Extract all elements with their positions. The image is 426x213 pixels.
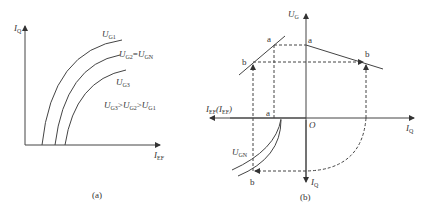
caption-b: (b) [300,192,311,202]
point-a-3: a [266,109,270,118]
caption-a: (a) [92,190,102,200]
curve-ug1-label: UG1 [102,30,116,40]
curve-ug1 [42,40,122,145]
line-left [239,36,285,75]
a-x-axis-label: IEF [154,151,164,161]
point-b-1: b [242,58,247,67]
line-right [306,45,383,69]
b-iq-right-label: IQ [406,124,413,134]
a-y-axis-label: IQ [14,24,21,34]
point-b-2: b [365,50,370,59]
origin-label: O [309,121,316,130]
curve-ug2-label: UG2=UGN [119,50,153,60]
relation-label: UG3>UG2>UG1 [104,101,156,111]
point-a-2: a [308,36,312,45]
b-iq-down-label: IQ [311,178,318,188]
point-a-1: a [267,35,271,44]
curve-ugn [232,119,281,170]
curve-ug3-label: UG3 [116,78,130,88]
point-b-3: b [250,178,255,187]
b-ug-label: UG [288,10,299,20]
ugn-label: UGN [232,148,247,158]
panel-a [25,26,160,145]
b-ief-label: IEF(IEF) [206,105,232,115]
